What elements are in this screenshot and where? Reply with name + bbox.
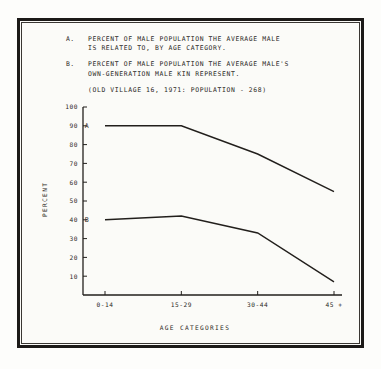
y-axis-tick-label: 10: [70, 273, 78, 280]
series-label-a: A: [85, 122, 89, 130]
figure-root: A. PERCENT OF MALE POPULATION THE AVERAG…: [0, 0, 381, 369]
y-axis-tick-label: 70: [70, 160, 78, 167]
caption-text-b: PERCENT OF MALE POPULATION THE AVERAGE M…: [88, 60, 289, 78]
caption-text-a: PERCENT OF MALE POPULATION THE AVERAGE M…: [88, 35, 280, 53]
y-axis-tick-label: 90: [70, 122, 78, 129]
y-axis-tick-label: 20: [70, 254, 78, 261]
figure-border: A. PERCENT OF MALE POPULATION THE AVERAG…: [17, 18, 364, 348]
y-axis-tick-label: 100: [65, 103, 78, 110]
y-axis-tick-label: 80: [70, 141, 78, 148]
chart-svg: 1020304050607080901000-1415-2930-4445 +A…: [40, 99, 350, 331]
y-axis-tick-label: 50: [70, 197, 78, 204]
y-axis-tick-label: 60: [70, 179, 78, 186]
caption-subtitle: (OLD VILLAGE 16, 1971: POPULATION - 268): [88, 86, 348, 95]
series-line-a: [105, 126, 334, 192]
caption-item-b: B. PERCENT OF MALE POPULATION THE AVERAG…: [66, 60, 348, 78]
y-axis-tick-label: 40: [70, 216, 78, 223]
y-axis-tick-label: 30: [70, 235, 78, 242]
x-axis-tick-label: 15-29: [171, 301, 192, 308]
series-label-b: B: [85, 216, 89, 224]
series-line-b: [105, 216, 334, 282]
x-axis-tick-label: 30-44: [247, 301, 268, 308]
caption-key-b: B.: [66, 60, 88, 69]
caption-block: A. PERCENT OF MALE POPULATION THE AVERAG…: [66, 35, 348, 95]
x-axis-tick-label: 0-14: [97, 301, 114, 308]
chart-plot-area: PERCENT AGE CATEGORIES 10203040506070809…: [40, 99, 350, 339]
caption-key-a: A.: [66, 35, 88, 44]
x-axis-tick-label: 45 +: [326, 301, 343, 308]
caption-item-a: A. PERCENT OF MALE POPULATION THE AVERAG…: [66, 35, 348, 53]
